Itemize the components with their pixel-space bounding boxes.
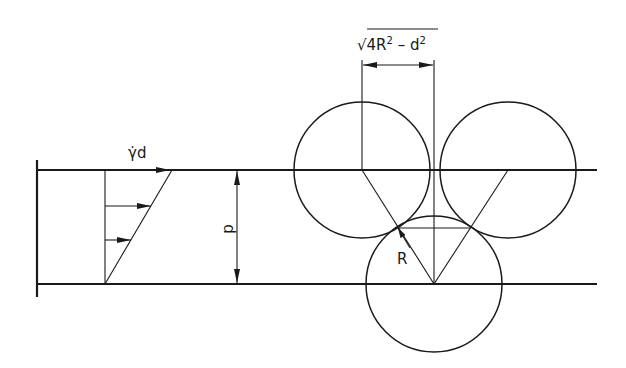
gap-dimension: d: [220, 171, 238, 283]
formula-term-d: d: [410, 36, 420, 54]
channel-walls: [37, 160, 597, 297]
formula-minus: –: [393, 36, 410, 54]
formula-sup-2: 2: [419, 35, 425, 46]
shear-flow-sphere-diagram: γ̇d d R √4R2 – d2: [0, 0, 626, 368]
shear-rate-label: γ̇d: [128, 144, 146, 162]
profile-slope: [105, 170, 172, 284]
sqrt-symbol: √: [357, 36, 367, 54]
radius-label: R: [397, 250, 407, 268]
radius-arrow: [398, 228, 410, 248]
formula-term-4r: 4R: [367, 36, 387, 54]
gap-label: d: [220, 224, 238, 234]
construction-lines: R: [362, 60, 508, 284]
right-center-to-lower-center: [434, 170, 508, 284]
spheres: [294, 102, 576, 352]
offset-formula: √4R2 – d2: [357, 35, 426, 54]
horizontal-offset-dimension: √4R2 – d2: [357, 29, 438, 65]
velocity-profile: γ̇d: [105, 144, 172, 284]
